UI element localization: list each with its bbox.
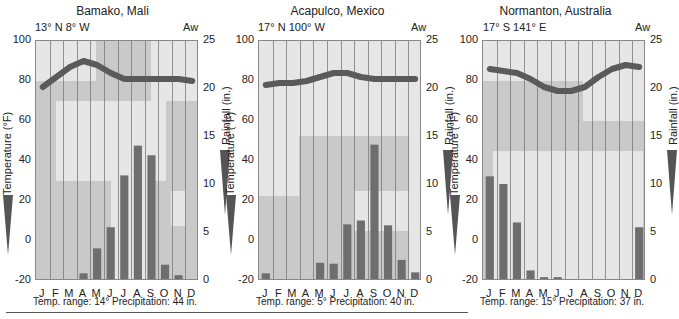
climograph-normanton: Normanton, Australia 17° S 141° E Aw 100…	[448, 0, 673, 300]
rainfall-bar	[357, 221, 365, 280]
temperature-wedge-icon	[226, 195, 236, 255]
climate-summary: Temp. range: 14° Precipitation: 44 in.	[33, 296, 197, 307]
rainfall-bar	[486, 176, 494, 280]
climate-class: Aw	[411, 21, 426, 33]
rainfall-bar	[526, 270, 534, 280]
rain-tick-label: 5	[203, 225, 209, 237]
temp-tick-label: -20	[5, 273, 31, 285]
rain-tick-label: 10	[203, 177, 215, 189]
rainfall-bar	[134, 146, 142, 280]
rain-tick-label: 15	[650, 129, 662, 141]
rainfall-bar	[513, 222, 521, 280]
temperature-line	[490, 65, 639, 91]
divider	[6, 312, 468, 313]
rainfall-bar	[316, 263, 324, 280]
chart-title: Bamako, Mali	[20, 4, 205, 18]
rainfall-wedge-icon	[667, 150, 677, 215]
rainfall-bar	[398, 260, 406, 280]
temp-tick-label: 100	[5, 33, 31, 45]
rain-tick-label: 25	[203, 33, 215, 45]
rainfall-bar	[262, 273, 270, 280]
rain-tick-label: 5	[426, 225, 432, 237]
rainfall-bar	[499, 184, 507, 280]
rain-tick-label: 0	[426, 273, 432, 285]
chart-svg	[36, 41, 198, 280]
temp-axis-label: Temperature (°F)	[224, 112, 236, 195]
rain-tick-label: 25	[426, 33, 438, 45]
rainfall-bar	[147, 155, 155, 280]
temp-tick-label: -20	[452, 273, 478, 285]
rain-tick-label: 10	[650, 177, 662, 189]
rainfall-bar	[107, 227, 115, 280]
climograph-bamako: Bamako, Mali 13° N 8° W Aw 100806040200-…	[0, 0, 225, 300]
rainfall-bar	[343, 224, 351, 280]
temp-tick-label: 80	[228, 73, 254, 85]
coordinates: 17° S 141° E	[483, 21, 546, 33]
plot-area	[35, 40, 198, 280]
rain-tick-label: 15	[426, 129, 438, 141]
temp-axis-label: Temperature (°F)	[1, 112, 13, 195]
temp-tick-label: 100	[228, 33, 254, 45]
rainfall-bar	[330, 264, 338, 280]
chart-title: Normanton, Australia	[463, 4, 648, 18]
rainfall-bar	[39, 279, 47, 280]
rain-tick-label: 15	[203, 129, 215, 141]
climate-summary: Temp. range: 15° Precipitation: 37 in.	[480, 296, 644, 307]
rainfall-bar	[52, 279, 60, 280]
temperature-wedge-icon	[3, 195, 13, 255]
rainfall-bar	[93, 248, 101, 280]
temp-tick-label: 80	[452, 73, 478, 85]
chart-title: Acapulco, Mexico	[245, 4, 430, 18]
rainfall-bar	[635, 227, 643, 280]
rainfall-bar	[370, 145, 378, 280]
rain-tick-label: 25	[650, 33, 662, 45]
rainfall-bar	[554, 277, 562, 280]
temp-axis-label: Temperature (°F)	[448, 112, 460, 195]
temp-tick-label: 100	[452, 33, 478, 45]
climograph-acapulco: Acapulco, Mexico 17° N 100° W Aw 1008060…	[225, 0, 450, 300]
coordinates: 17° N 100° W	[258, 21, 325, 33]
plot-area	[482, 40, 645, 280]
chart-svg	[483, 41, 645, 280]
rain-tick-label: 10	[426, 177, 438, 189]
rain-tick-label: 20	[426, 81, 438, 93]
rainfall-bar	[79, 273, 87, 280]
chart-svg	[259, 41, 421, 280]
rainfall-bar	[120, 175, 128, 280]
rain-tick-label: 0	[650, 273, 656, 285]
temp-tick-label: -20	[228, 273, 254, 285]
rainfall-bar	[66, 279, 74, 280]
rain-tick-label: 20	[650, 81, 662, 93]
climate-class: Aw	[635, 21, 650, 33]
rainfall-bar	[411, 272, 419, 280]
climate-class: Aw	[183, 21, 198, 33]
coordinates: 13° N 8° W	[35, 21, 90, 33]
rain-tick-label: 0	[203, 273, 209, 285]
temp-tick-label: 80	[5, 73, 31, 85]
temperature-wedge-icon	[450, 195, 460, 255]
rain-axis-label: Rainfall (in.)	[667, 86, 679, 145]
temperature-line	[266, 73, 415, 85]
rainfall-bar	[175, 275, 183, 280]
rainfall-bar	[540, 277, 548, 280]
temperature-line	[43, 61, 192, 87]
plot-area	[258, 40, 421, 280]
rainfall-bar	[384, 225, 392, 280]
rain-tick-label: 20	[203, 81, 215, 93]
rainfall-bar	[161, 265, 169, 280]
climate-summary: Temp. range: 5° Precipitation: 40 in.	[256, 296, 415, 307]
rain-tick-label: 5	[650, 225, 656, 237]
